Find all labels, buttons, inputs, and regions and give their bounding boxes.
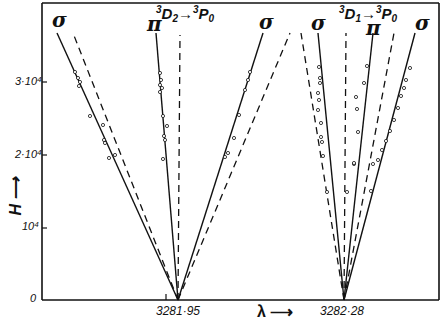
y-tick-label-0: 0 [30, 293, 36, 304]
arrow-icon: → [178, 5, 193, 22]
sigma-label-g2-right: σ [415, 13, 430, 33]
sigma-label-g1-left: σ [52, 10, 67, 30]
group-3d1-3p0 [301, 33, 415, 300]
y-tick-label-2e4: 2·10⁴ [15, 149, 42, 160]
observed-points [73, 64, 411, 193]
j-value: 0 [392, 13, 398, 24]
term: D [162, 5, 173, 22]
transition-label-3d1-3p0: 3D1→3P0 [339, 5, 397, 24]
x-tick-label-3282-28: 3282·28 [320, 305, 364, 317]
sigma-left-theory-line [73, 33, 178, 300]
y-axis-title: H ⟶ [8, 177, 24, 216]
pi-theory-line [178, 35, 180, 300]
term: D [345, 5, 356, 22]
transition-label-3d2-3p0: 3D2→3P0 [156, 5, 214, 24]
zeeman-chart [0, 0, 441, 323]
sigma-right-fit-line [344, 33, 415, 300]
sigma-label-g2-left: σ [311, 13, 326, 33]
arrow-icon: → [361, 5, 376, 22]
term: P [382, 5, 392, 22]
sigma-label-g1-right: σ [259, 12, 274, 32]
y-ticks [42, 82, 166, 300]
x-axis-title: λ ⟶ [257, 304, 293, 320]
group-3d2-3p0 [57, 33, 290, 300]
sigma-right-theory-line [178, 33, 290, 300]
x-tick-label-3281-95: 3281·95 [156, 305, 200, 317]
y-tick-label-3e4: 3·10⁴ [15, 76, 42, 87]
j-value: 0 [209, 13, 215, 24]
pi-theory-line [344, 33, 346, 300]
term: P [199, 5, 209, 22]
y-tick-label-1e4: 10⁴ [22, 221, 39, 232]
